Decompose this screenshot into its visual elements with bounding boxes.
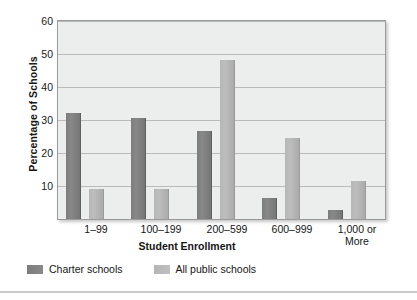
bar-charter [197, 131, 212, 219]
y-tick-label-50: 50 [27, 49, 53, 60]
y-tick-label-40: 40 [27, 82, 53, 93]
legend-item-all-public-schools: All public schools [154, 263, 257, 275]
footer-divider [0, 291, 417, 293]
x-tick-line2: More [318, 236, 396, 248]
bar-group [320, 21, 385, 219]
y-tick-label-60: 60 [27, 16, 53, 27]
x-axis-title: Student Enrollment [57, 240, 317, 252]
legend-swatch-icon-public [154, 265, 170, 274]
y-tick-label-30: 30 [27, 115, 53, 126]
y-tick-label-20: 20 [27, 148, 53, 159]
bar-public [285, 138, 300, 219]
bar-public [220, 60, 235, 219]
legend-swatch-icon-charter [27, 265, 43, 274]
bar-public [89, 189, 104, 219]
bar-charter [262, 198, 277, 219]
legend-item-charter-schools: Charter schools [27, 263, 123, 275]
chart-legend: Charter schools All public schools [27, 263, 278, 275]
x-tick-label-4: 1,000 or More [318, 224, 396, 247]
bar-public [351, 181, 366, 219]
legend-label-charter: Charter schools [49, 263, 123, 275]
bar-group [254, 21, 319, 219]
bar-charter [66, 113, 81, 219]
bar-group [58, 21, 123, 219]
y-tick-label-10: 10 [27, 181, 53, 192]
bar-charter [131, 118, 146, 219]
bar-public [154, 189, 169, 219]
plot-area [57, 20, 386, 220]
bar-chart-figure: Percentage of Schools 60 50 40 30 20 10 … [0, 0, 417, 300]
bar-charter [328, 210, 343, 219]
legend-label-public: All public schools [176, 263, 257, 275]
plot-inner [58, 21, 385, 219]
x-tick-line1: 1,000 or [318, 224, 396, 236]
bar-group [123, 21, 188, 219]
bar-group [189, 21, 254, 219]
